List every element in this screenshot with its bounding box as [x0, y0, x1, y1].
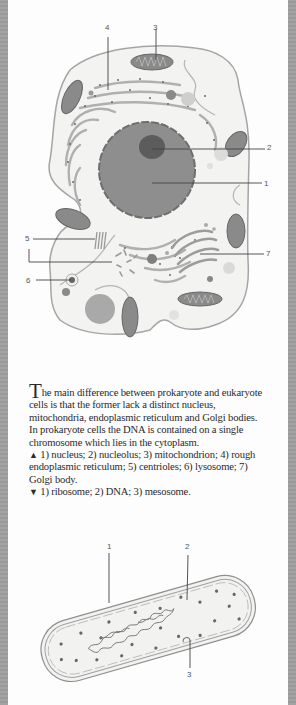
label-6: 6: [26, 276, 31, 285]
eukaryote-cell-figure: 4 3 2 1 5 6 7: [0, 0, 296, 360]
vesicle: [147, 254, 157, 264]
label-4: 4: [105, 23, 110, 32]
caption-prokaryote-key: ▼ 1) ribosome; 2) DNA; 3) mesosome.: [29, 486, 265, 498]
vesicle: [89, 91, 94, 96]
label-2: 2: [267, 143, 272, 152]
triangle-down-icon: ▼: [29, 487, 38, 497]
label-3: 3: [153, 23, 158, 32]
label-7: 7: [266, 249, 271, 258]
vacuole: [85, 294, 115, 324]
triangle-up-icon: ▲: [29, 450, 38, 460]
label-5: 5: [25, 234, 30, 243]
nucleolus: [139, 135, 165, 159]
caption-eukaryote-key: ▲ 1) nucleus; 2) nucleolus; 3) mitochond…: [29, 449, 265, 486]
vesicle: [207, 163, 213, 169]
vesicle: [181, 92, 195, 106]
caption-intro: The main difference between prokaryote a…: [29, 384, 265, 449]
vesicle: [207, 276, 213, 282]
vesicle: [166, 90, 176, 100]
vesicle: [169, 310, 179, 320]
caption: The main difference between prokaryote a…: [29, 384, 265, 499]
vesicle: [62, 288, 70, 296]
label-1: 1: [264, 179, 269, 188]
vesicle: [223, 262, 235, 274]
